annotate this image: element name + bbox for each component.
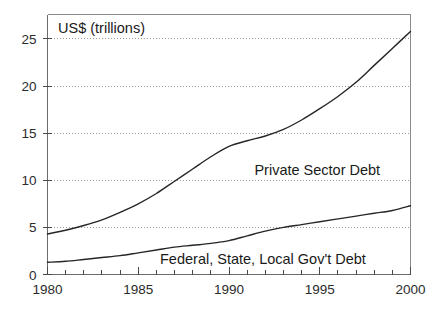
x-tick-label-1995: 1995: [305, 282, 335, 297]
gridlines-group: [48, 39, 411, 227]
y-axis-title: US$ (trillions): [58, 20, 145, 36]
y-tick-label-5: 5: [29, 220, 37, 235]
x-tick-label-1985: 1985: [123, 282, 153, 297]
x-tick-label-1980: 1980: [32, 282, 62, 297]
x-axis-tick-labels: 19801985199019952000: [32, 282, 425, 297]
x-tick-label-1990: 1990: [214, 282, 244, 297]
x-axis-ticks: [48, 267, 411, 275]
y-axis-tick-labels: 0510152025: [21, 32, 36, 283]
series-label-private-sector-debt: Private Sector Debt: [254, 162, 380, 178]
plot-frame: [48, 15, 411, 275]
y-tick-label-15: 15: [21, 126, 36, 141]
series-label-government-debt: Federal, State, Local Gov't Debt: [160, 251, 366, 267]
series-annotations: Private Sector DebtFederal, State, Local…: [160, 162, 380, 267]
y-tick-label-0: 0: [29, 268, 37, 283]
y-tick-label-25: 25: [21, 32, 36, 47]
y-tick-label-20: 20: [21, 79, 36, 94]
chart-container: 0510152025 19801985199019952000 US$ (tri…: [0, 0, 445, 317]
chart-canvas: 0510152025 19801985199019952000 US$ (tri…: [0, 0, 445, 317]
y-tick-label-10: 10: [21, 173, 36, 188]
x-tick-label-2000: 2000: [395, 282, 425, 297]
